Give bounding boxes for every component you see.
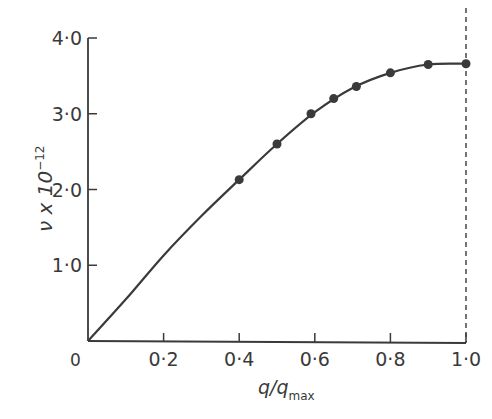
y-tick-label: 1·0 [52,254,82,276]
x-axis-line [88,341,466,343]
data-point [329,94,338,103]
data-point [235,175,244,184]
data-point [307,109,316,118]
data-point [273,140,282,149]
ticks: 1·02·03·04·00·20·40·60·81·0 [52,27,481,370]
curve-path [88,64,466,341]
y-tick-label: 3·0 [52,103,82,125]
y-axis-title-exponent: −12 [33,146,47,171]
axes [88,8,466,343]
y-axis-title-main: ν x 10−12 [33,146,57,233]
y-axis-title: ν x 10−12 [33,146,57,233]
data-point [386,68,395,77]
y-axis-title-text: ν x 10 [33,171,57,232]
origin-label: 0 [70,350,81,370]
data-point [424,60,433,69]
y-tick-label: 4·0 [52,27,82,49]
data-point [352,82,361,91]
x-tick-label: 0·8 [375,348,405,370]
x-axis-title-subscript: max [289,389,315,403]
x-tick-label: 0·6 [300,348,330,370]
data-points [235,59,471,184]
data-point [462,59,471,68]
x-tick-label: 0·4 [224,348,254,370]
x-tick-label: 1·0 [451,348,481,370]
x-axis-title-text: q/q [258,376,289,398]
chart: 1·02·03·04·00·20·40·60·81·0 0 ν x 10−12 … [0,0,492,419]
data-curve [88,64,466,341]
x-axis-title: q/qmax [258,376,315,403]
x-tick-label: 0·2 [148,348,178,370]
